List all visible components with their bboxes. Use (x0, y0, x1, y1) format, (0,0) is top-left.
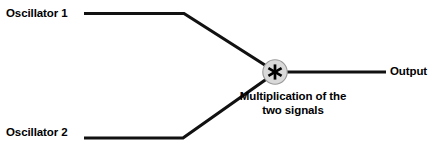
multiply-node (262, 59, 288, 85)
multiply-node-caption-line-2: two signals (193, 104, 393, 118)
output-label: Output (390, 66, 427, 78)
input-label-oscillator-2: Oscillator 2 (6, 127, 67, 139)
wire-oscillator-1-to-node (84, 14, 268, 68)
signal-flow-diagram: Oscillator 1 Oscillator 2 Output Multipl… (0, 0, 443, 147)
multiply-node-caption-line-1: Multiplication of the (193, 90, 393, 104)
input-label-oscillator-1: Oscillator 1 (6, 8, 67, 20)
multiply-node-caption: Multiplication of the two signals (193, 90, 393, 117)
wire-layer (0, 0, 443, 147)
